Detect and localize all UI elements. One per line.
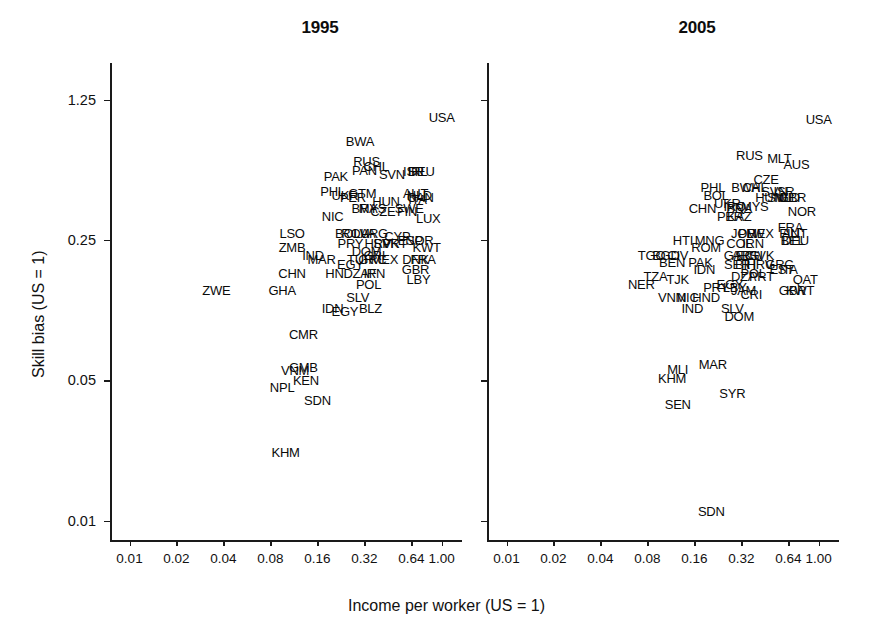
x-tick bbox=[270, 540, 272, 546]
x-tick bbox=[788, 540, 790, 546]
data-point-label: USA bbox=[429, 111, 455, 124]
data-point-label: PRT bbox=[382, 237, 407, 250]
x-tick bbox=[364, 540, 366, 546]
y-tick-label: 0.05 bbox=[48, 372, 96, 388]
x-tick-label: 0.04 bbox=[210, 551, 236, 566]
data-point-label: IND bbox=[681, 301, 703, 314]
y-tick bbox=[104, 380, 110, 382]
x-tick-label: 0.04 bbox=[587, 551, 613, 566]
y-tick bbox=[481, 240, 487, 242]
x-tick-label: 0.64 bbox=[775, 551, 801, 566]
data-point-label: NPL bbox=[270, 381, 295, 394]
x-tick bbox=[317, 540, 319, 546]
x-axis-title: Income per worker (US = 1) bbox=[0, 597, 893, 615]
x-tick bbox=[411, 540, 413, 546]
x-tick-label: 0.08 bbox=[257, 551, 283, 566]
data-point-label: KWT bbox=[786, 284, 814, 297]
data-point-label: KHM bbox=[658, 372, 686, 385]
data-point-label: BEN bbox=[659, 255, 685, 268]
x-tick-label: 0.16 bbox=[304, 551, 330, 566]
data-point-label: CRI bbox=[740, 287, 762, 300]
x-tick-label: 0.32 bbox=[728, 551, 754, 566]
y-axis-spine bbox=[487, 63, 489, 540]
data-point-label: KHM bbox=[272, 445, 300, 458]
x-tick bbox=[819, 540, 821, 546]
data-point-label: RUS bbox=[736, 149, 763, 162]
data-point-label: LBY bbox=[407, 272, 431, 285]
data-point-label: MAR bbox=[699, 358, 727, 371]
data-point-label: EGY bbox=[332, 305, 359, 318]
x-axis-spine bbox=[487, 540, 839, 542]
x-tick bbox=[507, 540, 509, 546]
data-point-label: CHN bbox=[278, 267, 305, 280]
data-point-label: ROM bbox=[691, 241, 721, 254]
scatter-figure: 19950.010.050.251.250.010.020.040.080.16… bbox=[0, 0, 893, 632]
x-tick bbox=[741, 540, 743, 546]
data-point-label: MEX bbox=[371, 253, 398, 266]
data-point-label: CZE bbox=[370, 204, 395, 217]
data-point-label: NIC bbox=[322, 209, 344, 222]
y-tick-label: 0.01 bbox=[48, 513, 96, 529]
y-tick bbox=[481, 521, 487, 523]
data-point-label: NOR bbox=[788, 204, 816, 217]
data-point-label: CMR bbox=[289, 327, 318, 340]
data-point-label: BLZ bbox=[359, 301, 382, 314]
y-tick-label: 0.25 bbox=[48, 232, 96, 248]
data-point-label: SDN bbox=[698, 504, 725, 517]
x-tick bbox=[553, 540, 555, 546]
data-point-label: HTI bbox=[673, 233, 693, 246]
y-tick bbox=[104, 240, 110, 242]
data-point-label: HND bbox=[325, 267, 352, 280]
x-tick-label: 0.32 bbox=[351, 551, 377, 566]
data-point-label: TJK bbox=[667, 272, 689, 285]
x-tick-label: 0.01 bbox=[493, 551, 519, 566]
y-tick bbox=[104, 100, 110, 102]
data-point-label: DOM bbox=[724, 309, 754, 322]
data-point-label: KAZ bbox=[727, 209, 752, 222]
data-point-label: LUX bbox=[416, 212, 441, 225]
y-axis-title: Skill bias (US = 1) bbox=[30, 250, 48, 378]
x-tick-label: 1.00 bbox=[806, 551, 832, 566]
x-tick-label: 0.02 bbox=[163, 551, 189, 566]
data-point-label: ZWE bbox=[202, 284, 230, 297]
x-tick-label: 0.16 bbox=[681, 551, 707, 566]
panel-title-2005: 2005 bbox=[637, 18, 757, 38]
data-point-label: SDN bbox=[304, 393, 331, 406]
data-point-label: AUS bbox=[783, 157, 809, 170]
y-tick bbox=[104, 521, 110, 523]
data-point-label: DEU bbox=[408, 165, 435, 178]
data-point-label: PRT bbox=[749, 270, 774, 283]
data-point-label: BWA bbox=[346, 134, 374, 147]
data-point-label: SYR bbox=[719, 387, 745, 400]
x-tick bbox=[600, 540, 602, 546]
x-tick bbox=[442, 540, 444, 546]
x-tick bbox=[694, 540, 696, 546]
y-tick bbox=[481, 100, 487, 102]
data-point-label: IDN bbox=[693, 262, 715, 275]
x-tick-label: 0.08 bbox=[634, 551, 660, 566]
y-tick bbox=[481, 380, 487, 382]
x-tick bbox=[647, 540, 649, 546]
y-axis-spine bbox=[110, 63, 112, 540]
data-point-label: GBR bbox=[779, 190, 806, 203]
data-point-label: NER bbox=[628, 278, 655, 291]
x-tick-label: 1.00 bbox=[429, 551, 455, 566]
data-point-label: MAR bbox=[307, 253, 335, 266]
x-tick-label: 0.01 bbox=[116, 551, 142, 566]
data-point-label: LSO bbox=[279, 227, 304, 240]
data-point-label: DEU bbox=[782, 233, 809, 246]
data-point-label: USA bbox=[806, 112, 832, 125]
data-point-label: GHA bbox=[268, 284, 295, 297]
data-point-label: SEN bbox=[665, 398, 691, 411]
data-point-label: KEN bbox=[293, 374, 319, 387]
y-tick-label: 1.25 bbox=[48, 92, 96, 108]
x-tick bbox=[223, 540, 225, 546]
x-tick bbox=[176, 540, 178, 546]
data-point-label: PAK bbox=[324, 169, 348, 182]
data-point-label: CHN bbox=[689, 202, 716, 215]
x-tick-label: 0.02 bbox=[540, 551, 566, 566]
x-tick-label: 0.64 bbox=[398, 551, 424, 566]
x-axis-spine bbox=[110, 540, 462, 542]
data-point-label: FIN bbox=[397, 204, 417, 217]
x-tick bbox=[130, 540, 132, 546]
